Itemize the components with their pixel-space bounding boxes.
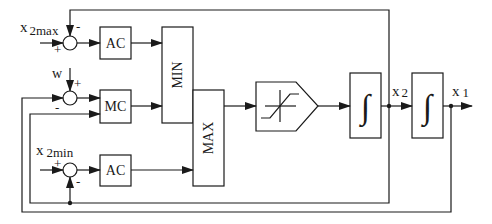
mc-label: MC [105,99,127,114]
node-sum3-feed [68,201,72,205]
block-diagram: AC MC AC MIN MAX ∫ ∫ x2max w x2min x2 x1 [0,0,492,224]
feedback-lines [22,10,451,212]
min-label: MIN [170,61,185,88]
sum-junction-3 [63,163,77,177]
signal-x2max: x2max [20,19,59,38]
signal-x2: x2 [392,83,408,100]
sign-sum2-top: + [74,76,81,91]
sum-junction-1 [63,36,77,50]
node-x2 [387,104,391,108]
sign-sum3-bottom: - [76,174,80,189]
ac-top-label: AC [106,36,125,51]
max-label: MAX [201,122,216,155]
node-x1 [449,104,453,108]
signal-x1: x1 [452,83,469,100]
sign-sum1-top: - [76,19,80,34]
sign-sum3-left: + [54,156,61,171]
sum-junction-2 [63,91,77,105]
ac-bottom-label: AC [106,163,125,178]
sign-sum2-left: - [55,100,59,115]
signal-w: w [52,66,63,81]
sign-sum1-left: + [54,42,61,57]
